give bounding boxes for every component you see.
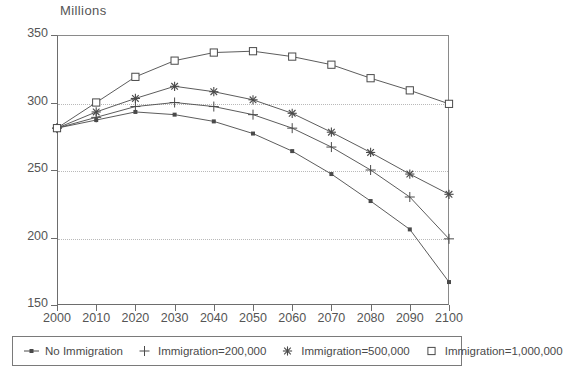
data-point-plus [170, 98, 180, 108]
data-point-asterisk [327, 128, 336, 137]
legend-label: Immigration=200,000 [158, 345, 266, 357]
series-line [57, 103, 449, 239]
legend-marker-plus-icon [136, 344, 153, 358]
data-point-asterisk [170, 82, 179, 91]
data-point-asterisk [283, 346, 292, 355]
data-point-filled-square [212, 119, 216, 123]
data-point-filled-square [251, 132, 255, 136]
data-point-asterisk [366, 148, 375, 157]
data-point-open-square [93, 99, 100, 106]
data-point-filled-square [447, 280, 451, 284]
data-point-filled-square [290, 149, 294, 153]
data-point-asterisk [288, 109, 297, 118]
legend-marker-filled-square-icon [23, 344, 40, 358]
data-point-filled-square [329, 172, 333, 176]
series-1 [52, 98, 454, 244]
legend-label: Immigration=1,000,000 [445, 345, 563, 357]
data-point-open-square [132, 73, 139, 80]
data-point-filled-square [173, 113, 177, 117]
legend-item-1[interactable]: Immigration=200,000 [136, 344, 266, 358]
data-point-plus [326, 142, 336, 152]
legend-item-0[interactable]: No Immigration [23, 344, 123, 358]
data-point-open-square [367, 75, 374, 82]
data-point-asterisk [444, 190, 453, 199]
legend-item-3[interactable]: Immigration=1,000,000 [423, 344, 563, 358]
legend-marker-open-square-icon [423, 344, 440, 358]
data-point-open-square [210, 49, 217, 56]
legend-label: Immigration=500,000 [301, 345, 409, 357]
data-point-plus [139, 346, 149, 356]
legend-label: No Immigration [45, 345, 123, 357]
data-point-plus [287, 123, 297, 133]
data-point-open-square [328, 61, 335, 68]
data-point-open-square [445, 100, 452, 107]
data-point-asterisk [209, 87, 218, 96]
chart-legend: No ImmigrationImmigration=200,000Immigra… [12, 336, 462, 366]
data-point-plus [209, 102, 219, 112]
legend-item-2[interactable]: Immigration=500,000 [279, 344, 409, 358]
data-point-asterisk [248, 95, 257, 104]
data-point-filled-square [30, 349, 34, 353]
series-0 [55, 110, 451, 284]
data-point-filled-square [408, 227, 412, 231]
data-point-asterisk [92, 107, 101, 116]
data-point-open-square [249, 48, 256, 55]
data-point-open-square [406, 87, 413, 94]
data-point-plus [366, 165, 376, 175]
data-point-open-square [53, 125, 60, 132]
data-point-plus [248, 110, 258, 120]
series-line [57, 112, 449, 282]
series-2 [52, 82, 453, 199]
data-point-open-square [171, 57, 178, 64]
data-point-asterisk [131, 94, 140, 103]
data-point-asterisk [405, 169, 414, 178]
data-point-open-square [289, 53, 296, 60]
legend-marker-asterisk-icon [279, 344, 296, 358]
data-point-filled-square [369, 199, 373, 203]
data-point-open-square [428, 347, 435, 354]
